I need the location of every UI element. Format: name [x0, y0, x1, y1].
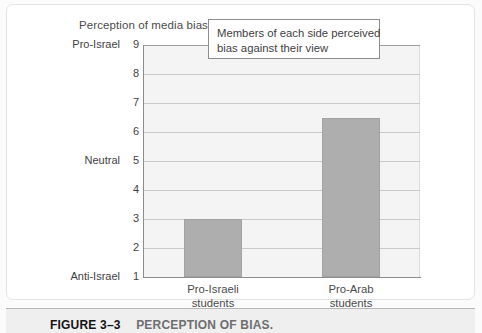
y-tick-label-5: 5	[125, 154, 139, 166]
x-category-label-2: Pro-Arabstudents	[291, 282, 411, 310]
y-tick-label-4: 4	[125, 183, 139, 195]
figure-caption-text: PERCEPTION OF BIAS.	[136, 318, 273, 332]
x-category-line-2: students	[153, 296, 273, 310]
figure-page: Perception of media bias Members of each…	[0, 0, 482, 333]
y-tick-label-2: 2	[125, 241, 139, 253]
figure-caption-inner: FIGURE 3–3 PERCEPTION OF BIAS.	[50, 315, 273, 333]
figure-number: FIGURE 3–3	[50, 318, 121, 332]
bar-1	[184, 219, 242, 277]
callout-line-2: bias against their view	[217, 41, 379, 56]
x-axis-line	[143, 277, 421, 278]
gridline-8	[144, 74, 420, 75]
callout-annotation: Members of each side perceived bias agai…	[208, 19, 380, 59]
figure-caption-bar: FIGURE 3–3 PERCEPTION OF BIAS.	[6, 308, 475, 333]
gridline-7	[144, 103, 420, 104]
x-category-label-1: Pro-Israelistudents	[153, 282, 273, 310]
bar-2	[322, 118, 380, 278]
y-axis-name-neutral: Neutral	[36, 154, 120, 166]
y-tick-label-3: 3	[125, 212, 139, 224]
y-axis-name-anti-israel: Anti-Israel	[36, 270, 120, 282]
y-tick-label-9: 9	[125, 38, 139, 50]
y-tick-label-8: 8	[125, 67, 139, 79]
y-tick-label-6: 6	[125, 125, 139, 137]
callout-line-1: Members of each side perceived	[217, 26, 379, 41]
y-axis-line	[143, 45, 144, 278]
y-tick-label-7: 7	[125, 96, 139, 108]
chart-title: Perception of media bias	[79, 19, 208, 31]
y-tick-label-1: 1	[125, 270, 139, 282]
y-axis-name-pro-israel: Pro-Israel	[36, 38, 120, 50]
x-category-line-2: students	[291, 296, 411, 310]
x-category-line-1: Pro-Israeli	[153, 282, 273, 296]
x-category-line-1: Pro-Arab	[291, 282, 411, 296]
